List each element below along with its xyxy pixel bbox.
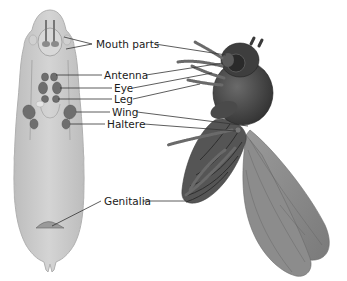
- antenna-disc: [42, 73, 49, 81]
- fly-haltere: [235, 127, 241, 133]
- label-text: Antenna: [104, 69, 148, 81]
- adult-fly-illustration: [168, 38, 329, 276]
- haltere-disc: [30, 119, 38, 129]
- label-antenna: Antenna: [56, 63, 223, 81]
- larva-illustration: [14, 10, 84, 272]
- diagram-canvas: Mouth parts Antenna Eye Leg Wing: [0, 0, 347, 281]
- fly-antenna: [251, 38, 262, 46]
- label-text: Leg: [114, 93, 133, 105]
- label-text: Genitalia: [104, 195, 151, 207]
- label-text: Haltere: [107, 118, 145, 130]
- eye-disc: [39, 82, 48, 94]
- label-text: Mouth parts: [96, 38, 159, 50]
- label-text: Wing: [112, 106, 138, 118]
